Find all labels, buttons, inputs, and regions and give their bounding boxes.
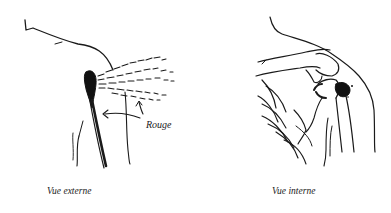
caption-internal-view: Vue interne (272, 186, 315, 196)
drawing-canvas (0, 0, 391, 213)
external-view-drawing (25, 20, 174, 168)
caption-external-view: Vue externe (47, 186, 91, 196)
shoulder-illustration: Rouge Vue externe Vue interne (0, 0, 391, 213)
annotation-rouge: Rouge (146, 119, 172, 130)
internal-view-drawing (256, 17, 375, 166)
